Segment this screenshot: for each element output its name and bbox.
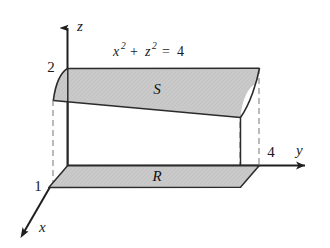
x-axis-label: x [38, 219, 46, 235]
equation-z: z [144, 44, 151, 59]
equation-value: 4 [177, 44, 184, 59]
z-axis-label: z [76, 18, 83, 34]
cylinder-surface-diagram: x 2 + z 2 = 4 z y x 2 1 4 S R [0, 0, 330, 248]
equation-plus: + [130, 44, 138, 59]
z-tick-label-2: 2 [47, 59, 55, 75]
diagram-background [0, 0, 330, 248]
equation-x-exponent: 2 [121, 41, 126, 51]
equation-x: x [112, 44, 120, 59]
y-tick-label-4: 4 [267, 144, 275, 160]
y-axis-label: y [294, 142, 303, 158]
region-R-label: R [151, 168, 161, 184]
x-tick-label-1: 1 [34, 178, 42, 194]
equation-equals: = [162, 44, 170, 59]
figure-container: x 2 + z 2 = 4 z y x 2 1 4 S R [0, 0, 330, 248]
surface-S-label: S [153, 81, 161, 97]
equation-z-exponent: 2 [152, 41, 157, 51]
